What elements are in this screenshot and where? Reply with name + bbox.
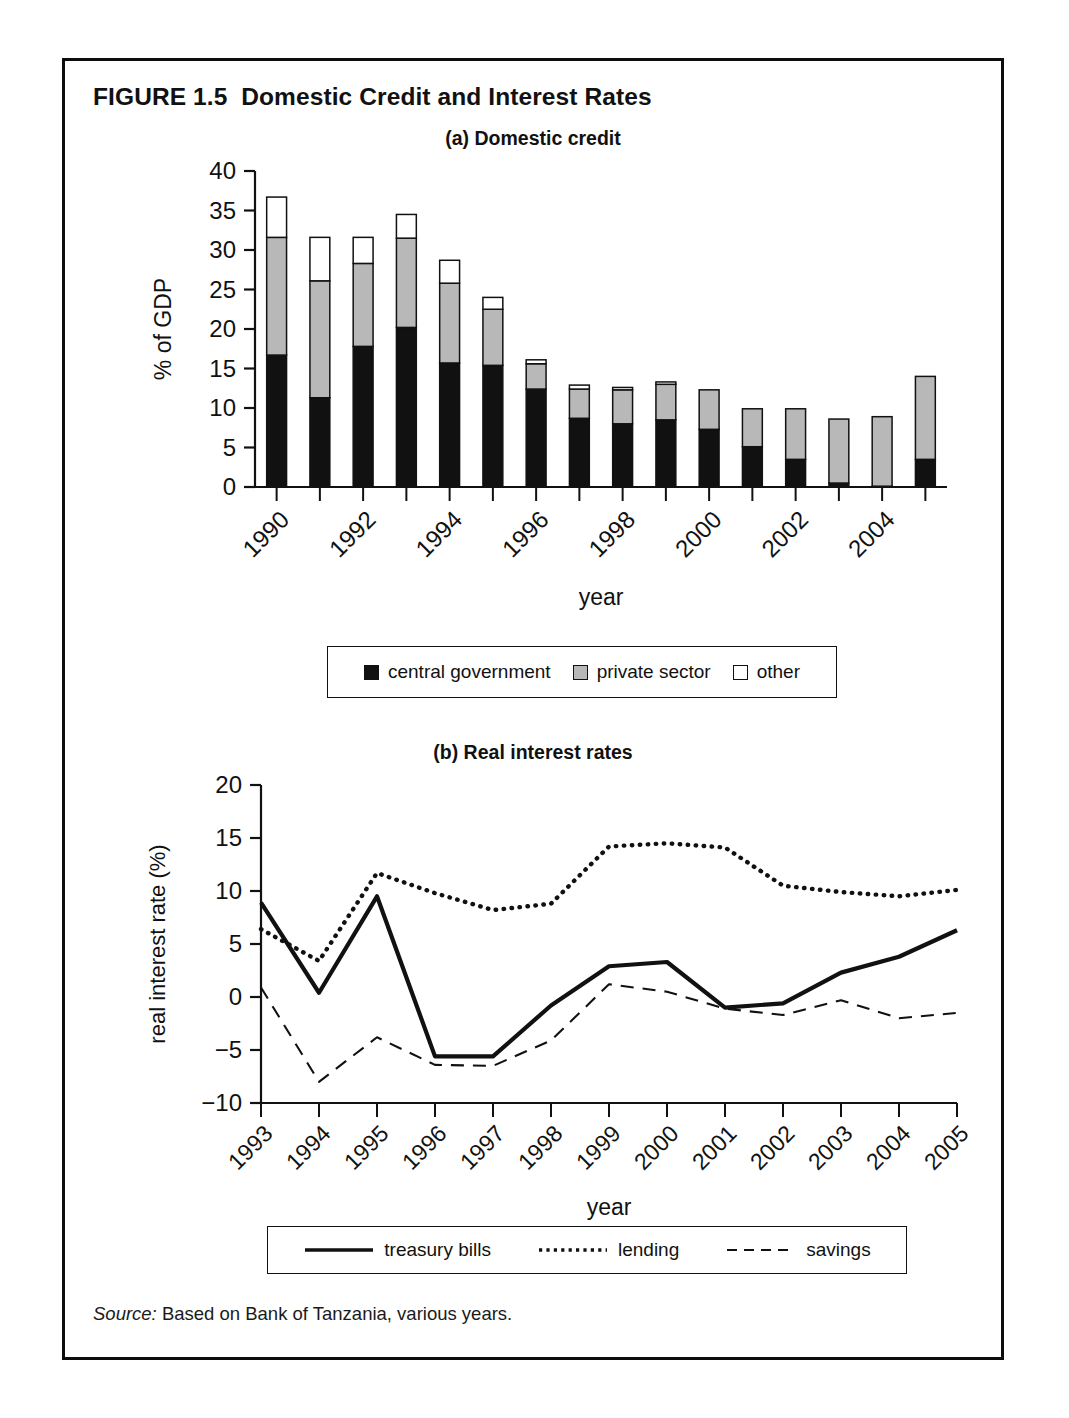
svg-text:0: 0 — [229, 983, 242, 1010]
y-axis-b: −10−505101520 — [201, 773, 261, 1116]
svg-text:20: 20 — [209, 315, 236, 342]
svg-text:10: 10 — [209, 394, 236, 421]
black-square-icon — [364, 665, 379, 680]
panel-a-title: (a) Domestic credit — [65, 127, 1001, 150]
y-axis-label-b: real interest rate (%) — [145, 844, 170, 1043]
svg-text:1994: 1994 — [410, 505, 467, 562]
solid-line-icon — [303, 1244, 375, 1256]
figure-page: FIGURE 1.5 Domestic Credit and Interest … — [0, 0, 1069, 1418]
svg-text:2004: 2004 — [843, 505, 900, 562]
legend-label: central government — [388, 661, 551, 683]
dashed-line-icon — [725, 1244, 797, 1256]
bar-group — [267, 197, 936, 487]
x-axis-a: 19901992199419961998200020022004 — [237, 487, 947, 562]
y-axis-label-a: % of GDP — [150, 278, 176, 380]
svg-text:1992: 1992 — [324, 505, 381, 562]
svg-text:1996: 1996 — [397, 1120, 452, 1175]
svg-text:1994: 1994 — [281, 1120, 336, 1175]
svg-text:2003: 2003 — [803, 1120, 858, 1175]
svg-text:1990: 1990 — [237, 505, 294, 562]
legend-panel-a: central government private sector other — [327, 646, 837, 698]
page-title: FIGURE 1.5 Domestic Credit and Interest … — [93, 83, 652, 111]
legend-item-treasury-bills: treasury bills — [303, 1239, 491, 1261]
svg-text:year: year — [579, 584, 624, 610]
legend-label: treasury bills — [384, 1239, 491, 1261]
legend-item-savings: savings — [725, 1239, 870, 1261]
legend-label: lending — [618, 1239, 679, 1261]
svg-text:−10: −10 — [201, 1089, 242, 1116]
svg-text:real interest rate (%): real interest rate (%) — [145, 844, 170, 1043]
legend-label: private sector — [597, 661, 711, 683]
y-axis-a: 0510152025303540 — [209, 157, 255, 500]
legend-item-other: other — [733, 661, 800, 683]
svg-text:1998: 1998 — [513, 1120, 568, 1175]
svg-text:35: 35 — [209, 197, 236, 224]
legend-item-central-government: central government — [364, 661, 551, 683]
x-axis-label-b: year — [587, 1194, 632, 1220]
legend-item-private-sector: private sector — [573, 661, 711, 683]
svg-text:15: 15 — [215, 824, 242, 851]
svg-text:1995: 1995 — [339, 1120, 394, 1175]
svg-text:1993: 1993 — [223, 1120, 278, 1175]
domestic-credit-chart: 0510152025303540 % of GDP 19901992199419… — [65, 157, 1007, 627]
svg-text:40: 40 — [209, 157, 236, 184]
dotted-line-icon — [537, 1244, 609, 1256]
x-axis-b: 1993199419951996199719981999200020012002… — [223, 1103, 974, 1175]
source-text: Based on Bank of Tanzania, various years… — [157, 1303, 512, 1324]
domestic-credit-svg: 0510152025303540 % of GDP 19901992199419… — [65, 157, 1007, 627]
svg-text:0: 0 — [223, 473, 236, 500]
line-group — [261, 843, 957, 1082]
legend-label: savings — [806, 1239, 870, 1261]
svg-text:5: 5 — [229, 930, 242, 957]
svg-text:2000: 2000 — [670, 505, 727, 562]
svg-text:1996: 1996 — [497, 505, 554, 562]
svg-text:2002: 2002 — [756, 505, 813, 562]
svg-text:−5: −5 — [215, 1036, 242, 1063]
source-note: Source: Based on Bank of Tanzania, vario… — [93, 1303, 512, 1325]
white-square-icon — [733, 665, 748, 680]
legend-item-lending: lending — [537, 1239, 679, 1261]
x-axis-label-a: year — [579, 584, 624, 610]
svg-text:30: 30 — [209, 236, 236, 263]
svg-text:1999: 1999 — [571, 1120, 626, 1175]
svg-text:10: 10 — [215, 877, 242, 904]
source-label: Source: — [93, 1303, 157, 1324]
legend-label: other — [757, 661, 800, 683]
svg-text:2004: 2004 — [861, 1120, 916, 1175]
svg-text:5: 5 — [223, 434, 236, 461]
svg-text:2001: 2001 — [687, 1120, 742, 1175]
svg-text:1997: 1997 — [455, 1120, 510, 1175]
svg-text:2005: 2005 — [919, 1120, 974, 1175]
svg-text:20: 20 — [215, 773, 242, 798]
svg-text:1998: 1998 — [583, 505, 640, 562]
panel-b-title: (b) Real interest rates — [65, 741, 1001, 764]
real-interest-rates-svg: −10−505101520 real interest rate (%) 199… — [65, 773, 1007, 1233]
legend-panel-b: treasury bills lending savings — [267, 1226, 907, 1274]
svg-text:year: year — [587, 1194, 632, 1220]
real-interest-rates-chart: −10−505101520 real interest rate (%) 199… — [65, 773, 1007, 1233]
gray-square-icon — [573, 665, 588, 680]
svg-text:2002: 2002 — [745, 1120, 800, 1175]
svg-text:2000: 2000 — [629, 1120, 684, 1175]
svg-text:% of GDP: % of GDP — [150, 278, 176, 380]
figure-frame: FIGURE 1.5 Domestic Credit and Interest … — [62, 58, 1004, 1360]
svg-text:15: 15 — [209, 355, 236, 382]
svg-text:25: 25 — [209, 276, 236, 303]
